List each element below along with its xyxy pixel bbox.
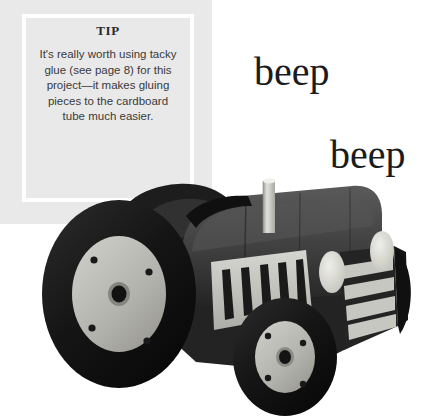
rear-wheel bbox=[42, 200, 196, 388]
tractor-photograph bbox=[0, 0, 422, 417]
craft-book-page: TIP It's really worth using tacky glue (… bbox=[0, 0, 422, 417]
headlight-right-icon bbox=[370, 231, 394, 271]
exhaust-pipe bbox=[263, 178, 275, 233]
headlight-left-icon bbox=[319, 251, 345, 293]
front-wheel bbox=[233, 298, 337, 416]
nose-shadow bbox=[396, 250, 411, 334]
